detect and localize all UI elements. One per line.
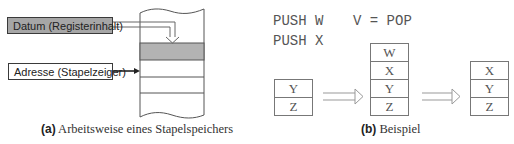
stack-cell: X <box>470 61 509 80</box>
transition-arrow-push <box>323 89 363 104</box>
stack-cell: Y <box>370 79 409 98</box>
stack-cell: Z <box>274 97 313 116</box>
stack-cell: Z <box>370 97 409 116</box>
code-push-x: PUSH X <box>273 33 323 49</box>
datum-label: Datum (Registerinhalt) <box>13 20 123 32</box>
caption-b: (b) Beispiel <box>361 122 420 137</box>
stack-cell: Y <box>470 79 509 98</box>
address-label: Adresse (Stapelzeiger) <box>14 66 126 78</box>
caption-b-tag: (b) <box>361 122 376 136</box>
stack-cell: Z <box>470 97 509 116</box>
code-push-w: PUSH W <box>273 13 323 29</box>
stack-cell: X <box>370 61 409 80</box>
stack-initial: Y Z <box>274 79 313 116</box>
stack-cell: W <box>370 43 409 62</box>
stack-cell: Y <box>274 79 313 98</box>
transition-arrow-pop <box>422 89 460 104</box>
stack-after-pop: X Y Z <box>470 61 509 116</box>
datum-register-box: Datum (Registerinhalt) <box>7 17 113 34</box>
stack-after-push: W X Y Z <box>370 43 409 116</box>
caption-b-text: Beispiel <box>376 122 420 136</box>
code-pop: V = POP <box>353 13 412 29</box>
memory-column-outline <box>140 9 204 118</box>
caption-a-text: Arbeitsweise eines Stapelspeichers <box>56 122 233 136</box>
memory-row-top-of-stack <box>140 43 204 60</box>
caption-a-tag: (a) <box>41 122 56 136</box>
address-pointer-box: Adresse (Stapelzeiger) <box>8 63 113 80</box>
caption-a: (a) Arbeitsweise eines Stapelspeichers <box>41 122 233 137</box>
